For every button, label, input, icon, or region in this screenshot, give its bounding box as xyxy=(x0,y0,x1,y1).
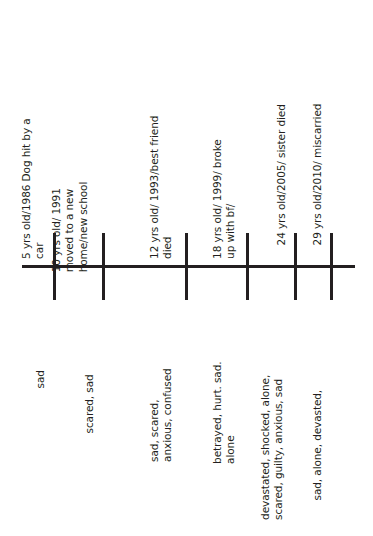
timeline-tick-3 xyxy=(185,233,188,300)
emotion-label-6: sad, alone, devasted, xyxy=(311,390,324,501)
timeline-tick-4 xyxy=(246,233,249,300)
emotion-label-4: betrayed, hurt. sad. alone xyxy=(211,362,238,464)
emotion-label-6-line-1: sad, alone, devasted, xyxy=(311,390,324,501)
emotion-label-2: scared, sad xyxy=(83,374,96,433)
event-label-5-line-1: 24 yrs old/2005/ sister died xyxy=(275,104,288,245)
timeline-tick-5 xyxy=(294,233,297,300)
emotion-label-3-line-1: sad, scared, xyxy=(148,368,161,462)
event-label-6-line-1: 29 yrs old/2010/ miscarried xyxy=(311,104,324,246)
event-label-3-line-1: 12 yrs old/ 1993/best friend xyxy=(148,116,161,259)
event-label-4: 18 yrs old/ 1999/ broke up with bf/ xyxy=(211,139,238,259)
event-label-2: 10 yrs old/ 1991 moved to a new home/new… xyxy=(50,182,90,273)
emotion-label-1: sad xyxy=(34,370,47,388)
event-label-6: 29 yrs old/2010/ miscarried xyxy=(311,104,324,246)
event-label-2-line-3: home/new school xyxy=(77,182,90,273)
timeline-figure: 5 yrs old/1986 Dog hit by a car 10 yrs o… xyxy=(0,0,373,536)
event-label-4-line-2: up with bf/ xyxy=(225,139,238,259)
emotion-label-4-line-2: alone xyxy=(225,362,238,464)
event-label-5: 24 yrs old/2005/ sister died xyxy=(275,104,288,245)
emotion-label-5: devastated, shocked, alone, scared, guil… xyxy=(259,375,286,520)
event-label-2-line-1: 10 yrs old/ 1991 xyxy=(50,182,63,273)
event-label-3-line-2: died xyxy=(162,116,175,259)
emotion-label-3: sad, scared, anxious, confused xyxy=(148,368,175,462)
emotion-label-1-line-1: sad xyxy=(34,370,47,388)
event-label-1-line-1: 5 yrs old/1986 Dog hit by a xyxy=(20,118,33,258)
emotion-label-4-line-1: betrayed, hurt. sad. xyxy=(211,362,224,464)
timeline-tick-6 xyxy=(330,233,333,300)
timeline-tick-2 xyxy=(102,233,105,300)
event-label-4-line-1: 18 yrs old/ 1999/ broke xyxy=(211,139,224,259)
emotion-label-3-line-2: anxious, confused xyxy=(162,368,175,462)
emotion-label-5-line-2: scared, guilty, anxious, sad xyxy=(273,375,286,520)
event-label-1-line-2: car xyxy=(34,118,47,258)
event-label-1: 5 yrs old/1986 Dog hit by a car xyxy=(20,118,47,258)
event-label-2-line-2: moved to a new xyxy=(63,182,76,273)
emotion-label-5-line-1: devastated, shocked, alone, xyxy=(259,375,272,520)
event-label-3: 12 yrs old/ 1993/best friend died xyxy=(148,116,175,259)
emotion-label-2-line-1: scared, sad xyxy=(83,374,96,433)
